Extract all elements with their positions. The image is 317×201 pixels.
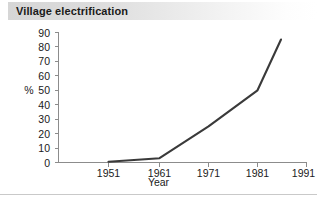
y-tick-label-10: 10 — [38, 142, 50, 154]
page-title: Village electrification — [16, 5, 128, 17]
y-axis-title: % — [24, 84, 33, 96]
y-tick-marks — [55, 33, 59, 163]
y-tick-label-20: 20 — [38, 128, 50, 140]
y-tick-label-90: 90 — [38, 27, 50, 39]
y-tick-labels: 90 80 70 60 50 40 30 20 10 0 — [38, 27, 50, 169]
chart-figure: Village electrification — [0, 0, 317, 201]
x-tick-marks — [109, 163, 307, 167]
x-axis-title: Year — [148, 176, 169, 188]
data-series-line — [109, 40, 282, 162]
y-tick-label-60: 60 — [38, 70, 50, 82]
y-tick-label-0: 0 — [44, 157, 50, 169]
line-chart-svg: 90 80 70 60 50 40 30 20 10 0 % — [0, 20, 317, 180]
y-tick-label-70: 70 — [38, 55, 50, 67]
chart-plot-container: 90 80 70 60 50 40 30 20 10 0 % — [0, 20, 317, 180]
y-tick-label-50: 50 — [38, 84, 50, 96]
chart-title-bar: Village electrification — [8, 2, 317, 20]
x-axis-title-wrapper: Year — [0, 172, 317, 190]
bottom-divider — [0, 194, 317, 195]
y-tick-label-40: 40 — [38, 99, 50, 111]
y-tick-label-80: 80 — [38, 41, 50, 53]
y-tick-label-30: 30 — [38, 113, 50, 125]
